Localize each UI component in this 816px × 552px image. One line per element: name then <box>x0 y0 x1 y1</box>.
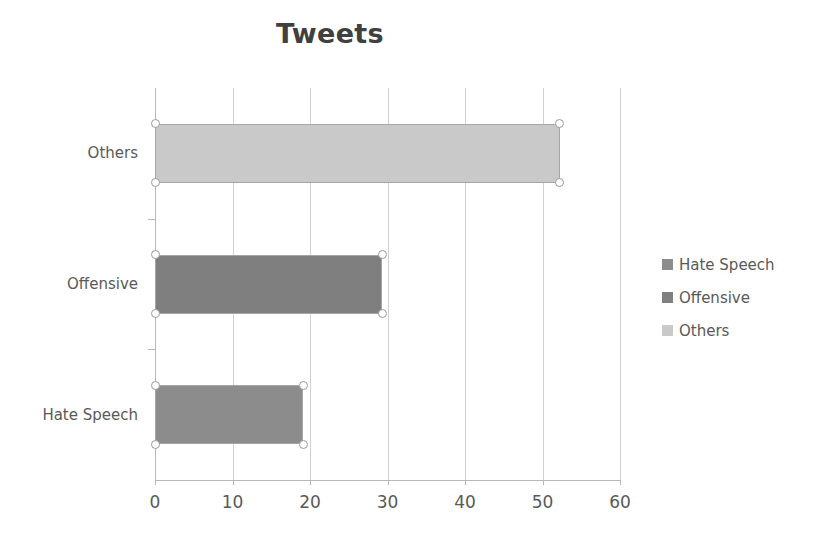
value-tick-10 <box>233 480 234 485</box>
value-tick-0 <box>155 480 156 485</box>
value-tick-40 <box>465 480 466 485</box>
selection-handle[interactable] <box>151 119 160 128</box>
category-tick <box>148 349 155 350</box>
value-tick-60 <box>620 480 621 485</box>
value-axis-label: 60 <box>590 492 650 512</box>
gridline-60 <box>620 88 621 480</box>
value-tick-50 <box>543 480 544 485</box>
bar-hate-speech[interactable] <box>155 385 303 444</box>
value-tick-30 <box>388 480 389 485</box>
value-axis-label: 20 <box>280 492 340 512</box>
category-axis-label: Offensive <box>0 275 138 293</box>
chart-legend[interactable]: Hate SpeechOffensiveOthers <box>662 248 775 347</box>
legend-entry-offensive[interactable]: Offensive <box>662 281 775 314</box>
category-tick <box>148 219 155 220</box>
legend-swatch-icon <box>662 259 673 270</box>
legend-entry-hate-speech[interactable]: Hate Speech <box>662 248 775 281</box>
value-tick-20 <box>310 480 311 485</box>
selection-handle[interactable] <box>299 381 308 390</box>
selection-handle[interactable] <box>151 440 160 449</box>
value-axis-label: 40 <box>435 492 495 512</box>
legend-label: Offensive <box>679 289 750 307</box>
value-axis-label: 30 <box>358 492 418 512</box>
bar-others[interactable] <box>155 124 560 183</box>
legend-label: Others <box>679 322 729 340</box>
legend-entry-others[interactable]: Others <box>662 314 775 347</box>
chart-title[interactable]: Tweets <box>0 18 660 49</box>
legend-label: Hate Speech <box>679 256 775 274</box>
selection-handle[interactable] <box>151 381 160 390</box>
selection-handle[interactable] <box>378 250 387 259</box>
legend-swatch-icon <box>662 292 673 303</box>
value-axis-label: 0 <box>125 492 185 512</box>
value-axis-label: 50 <box>513 492 573 512</box>
selection-handle[interactable] <box>299 440 308 449</box>
selection-handle[interactable] <box>378 309 387 318</box>
selection-handle[interactable] <box>151 178 160 187</box>
selection-handle[interactable] <box>151 309 160 318</box>
bar-offensive[interactable] <box>155 255 382 314</box>
value-axis-label: 10 <box>203 492 263 512</box>
legend-swatch-icon <box>662 325 673 336</box>
chart-container[interactable]: Tweets 0102030405060Hate SpeechOffensive… <box>0 0 816 552</box>
category-axis-label: Others <box>0 144 138 162</box>
selection-handle[interactable] <box>151 250 160 259</box>
category-axis-label: Hate Speech <box>0 406 138 424</box>
